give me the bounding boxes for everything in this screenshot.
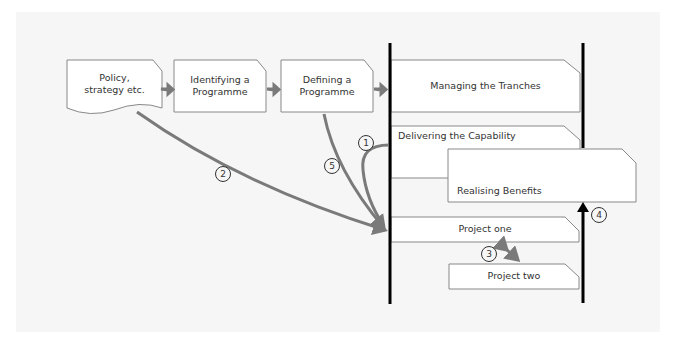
project-one-label: Project one (391, 223, 579, 235)
identifying-label: Identifying a Programme (174, 74, 266, 98)
arrow-1 (363, 145, 389, 226)
realising-label: Realising Benefits (457, 185, 627, 197)
delivering-label: Delivering the Capability (398, 130, 578, 142)
defining-label: Defining a Programme (281, 74, 373, 98)
diagram-shapes (0, 0, 693, 338)
marker-2: 2 (215, 166, 231, 182)
policy-label-line2: strategy etc. (67, 84, 162, 96)
arrow-right-icon (267, 85, 279, 94)
identifying-label-line1: Identifying a (174, 74, 266, 86)
identifying-label-line2: Programme (174, 86, 266, 98)
marker-5: 5 (324, 158, 340, 174)
arrow-right-icon (374, 85, 386, 94)
defining-label-line1: Defining a (281, 74, 373, 86)
marker-4: 4 (591, 207, 607, 223)
managing-label: Managing the Tranches (391, 80, 580, 92)
arrow-up-icon (577, 202, 589, 212)
defining-label-line2: Programme (281, 86, 373, 98)
arrow-right-icon (161, 85, 173, 94)
marker-1: 1 (358, 135, 374, 151)
arrow-2 (137, 112, 385, 230)
policy-label-line1: Policy, (67, 72, 162, 84)
marker-3: 3 (481, 246, 497, 262)
project-two-label: Project two (449, 270, 579, 282)
policy-label: Policy, strategy etc. (67, 72, 162, 96)
arrow-3 (507, 250, 518, 260)
